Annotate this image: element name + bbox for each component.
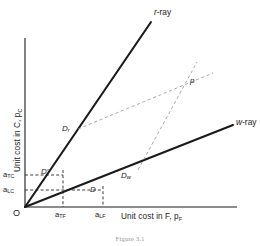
- y-axis-title: Unit cost in C, pC: [14, 108, 22, 172]
- figure-caption: Figure 3.1: [0, 235, 260, 243]
- x-tick-label-atf: aTF: [55, 211, 66, 219]
- x-axis-title: Unit cost in F, pF: [121, 213, 182, 221]
- r-ray-line: [25, 22, 151, 207]
- w-ray-label: w-ray: [236, 118, 257, 126]
- point-label-d: D: [90, 186, 96, 194]
- economics-ray-diagram: Unit cost in C, pC Unit cost in F, pF O …: [0, 0, 260, 246]
- point-label-dw: Dw: [121, 172, 131, 180]
- point-label-d-prime: D′: [41, 168, 48, 176]
- origin-label: O: [13, 209, 20, 218]
- r-ray-label: r-ray: [154, 8, 171, 16]
- x-tick-label-alf: aLF: [95, 211, 106, 219]
- y-tick-label-atc: aTC: [3, 171, 14, 179]
- w-ray-line: [25, 125, 233, 207]
- figure-canvas: [0, 0, 260, 246]
- isocost-dw-p-line: [138, 62, 197, 170]
- y-tick-label-alc: aLC: [3, 186, 14, 194]
- point-label-dr: Dr: [62, 125, 70, 133]
- point-label-p: p: [190, 77, 194, 85]
